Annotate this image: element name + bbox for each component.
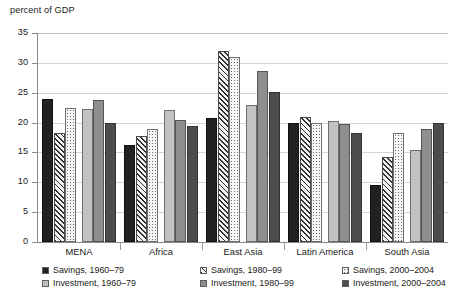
bar [229,57,240,242]
legend-label: Investment, 2000–2004 [353,278,446,288]
legend-item: Investment, 1980–99 [200,278,294,288]
bar [257,71,268,242]
bar [147,129,158,242]
bar [269,92,280,242]
bar [288,123,299,242]
y-axis-tick-label: 15 [0,146,28,156]
bar [311,123,322,242]
dotted-swatch [342,267,349,274]
legend-label: Investment, 1960–79 [53,278,136,288]
x-axis-category-label: East Asia [202,246,284,257]
bar [54,133,65,242]
bar [105,123,116,242]
y-axis-tick-label: 5 [0,206,28,216]
y-axis-tick-mark [32,123,37,124]
bar [218,51,229,242]
bar [206,118,217,242]
mid-gray-swatch [200,280,207,287]
bar-group [284,33,366,242]
y-axis-tick-mark [32,182,37,183]
bar [246,105,257,242]
legend-label: Savings, 1980–99 [211,265,282,275]
chart-legend: Savings, 1960–79Savings, 1980–99Savings,… [42,265,452,299]
bar [339,124,350,242]
legend-item: Savings, 1980–99 [200,265,282,275]
light-gray-swatch [42,280,49,287]
bar [300,117,311,242]
y-axis-tick-label: 10 [0,176,28,186]
y-axis-tick-mark [32,93,37,94]
bar [370,185,381,242]
legend-label: Savings, 2000–2004 [353,265,434,275]
x-axis-category-label: South Asia [366,246,448,257]
x-axis-category-label: Latin America [284,246,366,257]
x-axis-category-label: Africa [120,246,202,257]
hatched-swatch [200,267,207,274]
bar [351,133,362,242]
bar-group [120,33,202,242]
legend-item: Savings, 2000–2004 [342,265,434,275]
bar [65,108,76,242]
dark-gray-swatch [342,280,349,287]
bar [175,120,186,242]
legend-label: Investment, 1980–99 [211,278,294,288]
legend-item: Investment, 1960–79 [42,278,136,288]
bar [93,100,104,242]
bar [328,121,339,242]
x-axis-category-label: MENA [38,246,120,257]
y-axis-title: percent of GDP [10,5,75,15]
legend-label: Savings, 1960–79 [53,265,124,275]
plot-area [38,33,448,242]
bar [410,150,421,242]
bar [382,157,393,242]
bar [393,133,404,242]
bar-chart-figure: percent of GDP 05101520253035 MENAAfrica… [0,0,455,302]
bar [433,123,444,242]
bar [187,126,198,242]
bar [42,99,53,242]
solid-black-swatch [42,267,49,274]
bar-group [202,33,284,242]
y-axis-tick-mark [32,242,37,243]
y-axis-tick-label: 20 [0,117,28,127]
bar [136,136,147,242]
x-axis-line [37,242,448,243]
bar [124,145,135,242]
legend-item: Investment, 2000–2004 [342,278,446,288]
y-axis-tick-label: 35 [0,27,28,37]
y-axis-tick-mark [32,33,37,34]
bar [82,109,93,242]
legend-item: Savings, 1960–79 [42,265,124,275]
bar-group [366,33,448,242]
y-axis-tick-label: 25 [0,87,28,97]
bar [164,110,175,242]
y-axis-tick-mark [32,63,37,64]
bar [421,129,432,242]
y-axis-tick-label: 30 [0,57,28,67]
y-axis-tick-mark [32,152,37,153]
y-axis-tick-mark [32,212,37,213]
bar-group [38,33,120,242]
y-axis-tick-label: 0 [0,236,28,246]
